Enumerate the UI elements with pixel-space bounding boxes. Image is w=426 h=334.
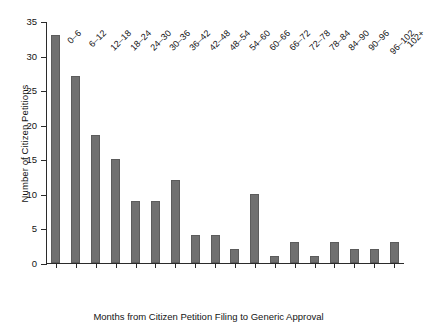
x-axis-tick xyxy=(354,264,355,268)
x-axis-tick xyxy=(334,264,335,268)
bar xyxy=(111,159,120,263)
bar xyxy=(91,135,100,263)
y-axis-tick-label: 25 xyxy=(26,85,37,96)
x-axis-tick xyxy=(215,264,216,268)
x-axis-line xyxy=(46,263,404,264)
bar xyxy=(171,180,180,263)
x-axis-title: Months from Citizen Petition Filing to G… xyxy=(0,311,417,322)
bar xyxy=(350,249,359,263)
y-axis-tick-label: 10 xyxy=(26,189,37,200)
x-axis-tick xyxy=(96,264,97,268)
y-axis-tick-label: 15 xyxy=(26,154,37,165)
bar xyxy=(310,256,319,263)
bar xyxy=(51,35,60,263)
bar xyxy=(191,235,200,263)
y-axis-tick: 0 xyxy=(41,264,46,265)
bar xyxy=(330,242,339,263)
y-axis-tick-label: 20 xyxy=(26,120,37,131)
x-axis-tick xyxy=(136,264,137,268)
bar xyxy=(71,76,80,263)
x-axis-tick xyxy=(195,264,196,268)
bar xyxy=(151,201,160,263)
bar xyxy=(370,249,379,263)
y-axis-tick-label: 35 xyxy=(26,16,37,27)
x-axis-tick xyxy=(175,264,176,268)
x-axis-tick xyxy=(295,264,296,268)
x-axis-tick xyxy=(394,264,395,268)
y-axis-tick-label: 5 xyxy=(32,223,37,234)
bar xyxy=(230,249,239,263)
y-axis-tick-label: 30 xyxy=(26,51,37,62)
y-axis-tick-label: 0 xyxy=(32,258,37,269)
bar xyxy=(131,201,140,263)
y-axis-title: Number of Citizen Petitions xyxy=(19,34,30,254)
bar xyxy=(290,242,299,263)
bar xyxy=(250,194,259,263)
bar xyxy=(270,256,279,263)
x-axis-tick xyxy=(56,264,57,268)
x-axis-tick xyxy=(76,264,77,268)
x-axis-tick xyxy=(155,264,156,268)
x-axis-tick xyxy=(235,264,236,268)
x-axis-tick xyxy=(116,264,117,268)
bar-series xyxy=(46,21,404,263)
bar xyxy=(390,242,399,263)
x-axis-tick xyxy=(315,264,316,268)
x-axis-tick xyxy=(255,264,256,268)
x-axis-tick xyxy=(275,264,276,268)
plot-area: 05101520253035 0–66–1212–1818–2424–3030–… xyxy=(46,22,404,264)
bar xyxy=(211,235,220,263)
x-axis-tick xyxy=(374,264,375,268)
